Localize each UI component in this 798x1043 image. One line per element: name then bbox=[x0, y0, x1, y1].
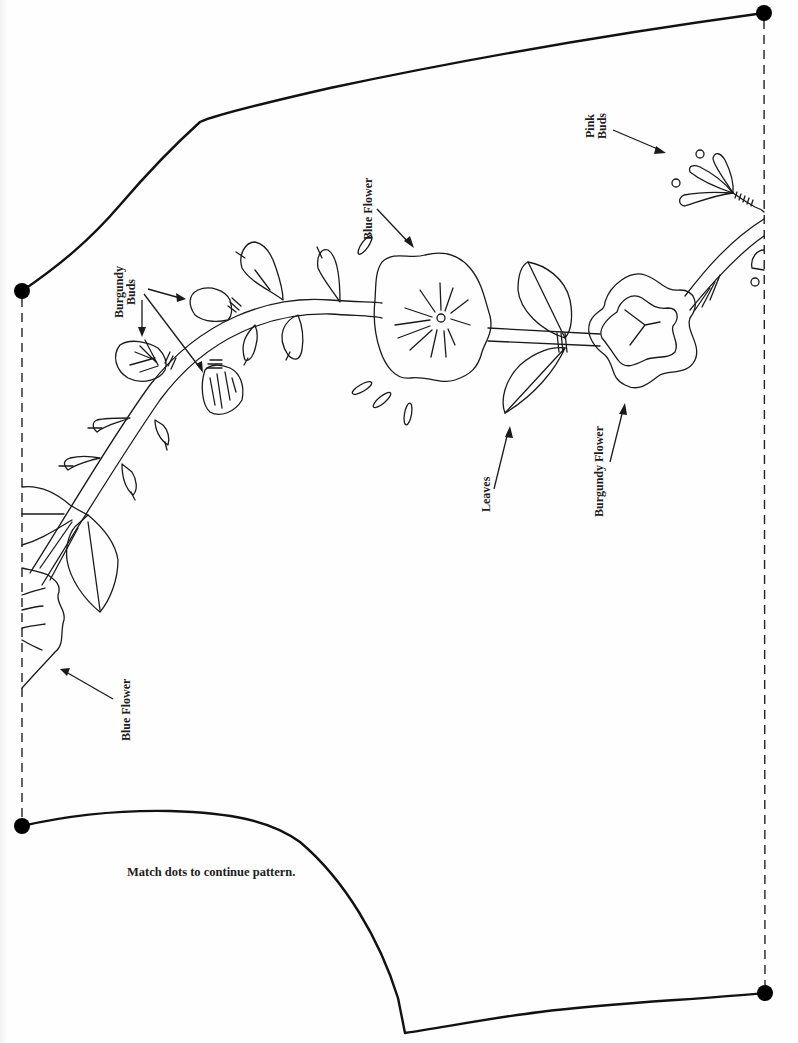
label-pink-buds-line2: Buds bbox=[596, 113, 608, 139]
match-dot-top-right bbox=[756, 5, 772, 21]
blue-flower-left bbox=[22, 487, 118, 688]
match-dot-bottom-left bbox=[14, 818, 30, 834]
label-leaves: Leaves bbox=[480, 477, 492, 512]
vine-leaves-upper bbox=[236, 242, 340, 365]
leaves-pair bbox=[503, 262, 571, 413]
match-dot-bottom-right bbox=[757, 985, 773, 1001]
vine-leaves-lower bbox=[59, 418, 169, 500]
match-dots-note: Match dots to continue pattern. bbox=[127, 865, 295, 880]
right-match-line bbox=[764, 20, 765, 986]
pink-buds bbox=[672, 150, 764, 286]
neckline-outline bbox=[22, 13, 764, 291]
label-blue-flower-top: Blue Flower bbox=[362, 178, 374, 240]
label-burgundy-buds: Burgundy Buds bbox=[113, 266, 137, 318]
label-burgundy-buds-line2: Buds bbox=[125, 266, 137, 318]
pattern-canvas: Burgundy Buds Blue Flower Pink Buds Leav… bbox=[0, 0, 798, 1043]
label-pink-buds: Pink Buds bbox=[584, 113, 608, 139]
pattern-drawing bbox=[0, 0, 798, 1043]
match-dot-top-left bbox=[14, 283, 30, 299]
burgundy-flower bbox=[589, 274, 720, 388]
blue-flower-center bbox=[374, 253, 491, 381]
label-blue-flower-bottom: Blue Flower bbox=[120, 679, 132, 741]
label-burgundy-flower: Burgundy Flower bbox=[593, 426, 605, 517]
vine-stem bbox=[30, 219, 764, 585]
hem-outline bbox=[22, 811, 765, 1033]
